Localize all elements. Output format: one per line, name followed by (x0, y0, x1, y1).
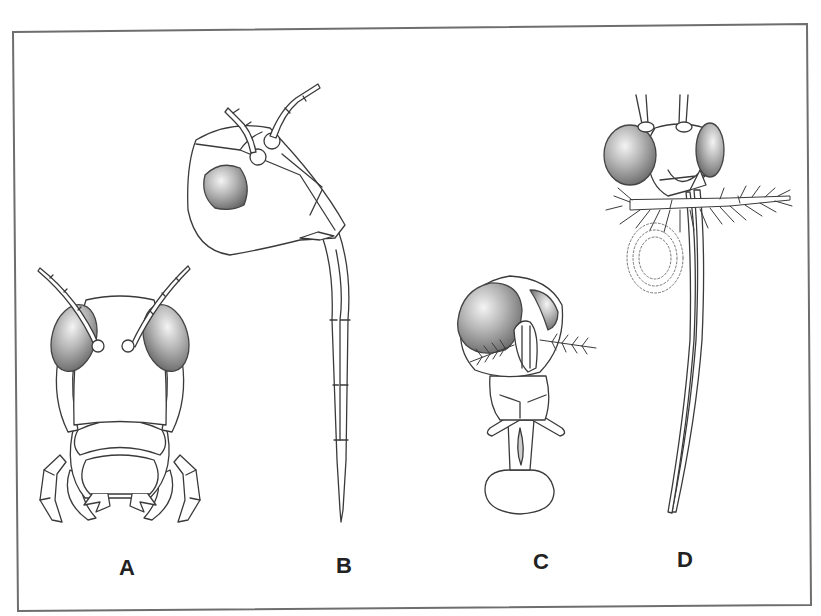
panel-label-d: D (677, 549, 693, 571)
figure-plate (0, 0, 821, 616)
compound-eye-icon (604, 125, 656, 185)
panel-c-drawing (458, 276, 596, 514)
compound-eye-icon (696, 123, 724, 177)
panel-label-b: B (336, 555, 352, 577)
compound-eye-icon (458, 283, 522, 353)
panel-b-drawing (188, 84, 350, 522)
panel-label-c: C (533, 551, 549, 573)
panel-d-drawing (604, 95, 792, 513)
panel-label-a: A (119, 557, 135, 579)
compound-eye-icon (204, 165, 247, 209)
panel-a-drawing (38, 266, 200, 522)
